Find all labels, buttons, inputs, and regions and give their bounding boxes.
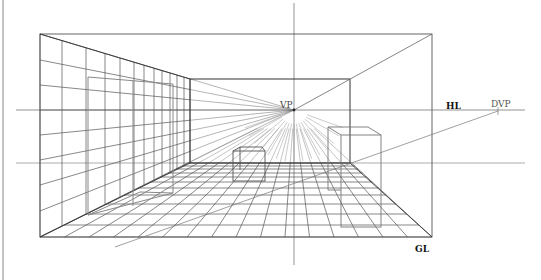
diagonal-top-right: [294, 34, 432, 110]
vp-label: VP: [280, 100, 293, 110]
box-left-wall: [88, 77, 173, 215]
diagonal-top-left: [40, 34, 190, 79]
vanishing-point-marker: [293, 109, 296, 112]
ground-line-label: GL: [415, 244, 429, 254]
horizon-line-label: HL: [446, 101, 461, 111]
left-wall-grid: [40, 34, 190, 237]
diagonal-bottom-right: [350, 163, 432, 237]
dvp-label: DVP: [491, 99, 511, 109]
diagonal-bottom-left: [40, 163, 190, 237]
perspective-canvas: [0, 0, 541, 280]
perspective-diagram: VP HL DVP GL: [0, 0, 541, 280]
back-wall: [190, 79, 350, 163]
floor-grid: [40, 163, 432, 237]
outer-frame: [40, 34, 432, 237]
